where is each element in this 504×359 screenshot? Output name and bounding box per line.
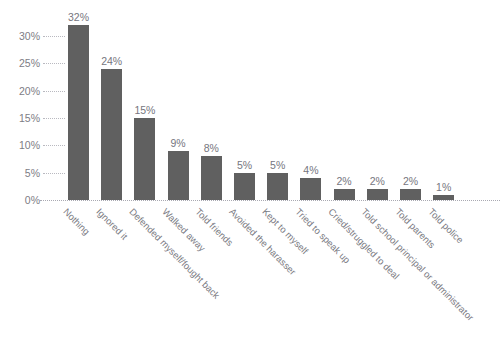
y-axis-tick-label: 10% [19,139,40,151]
zero-baseline [40,200,500,201]
bar-value-label: 24% [91,55,132,67]
y-axis-gridline-stub [43,145,65,146]
y-axis-tick: 15% [0,112,40,124]
y-axis-tick-label: 5% [25,167,40,179]
y-axis-tick: 20% [0,85,40,97]
bar [168,151,189,200]
bar [68,25,89,200]
bar [201,156,222,200]
bar [400,189,421,200]
bar [267,173,288,200]
bar [334,189,355,200]
y-axis-gridline-stub [43,173,65,174]
plot-area: 0%5%10%15%20%25%30% 32%24%15%9%8%5%5%4%2… [0,0,504,359]
y-axis-tick: 25% [0,57,40,69]
y-axis-tick: 10% [0,139,40,151]
bar [367,189,388,200]
bar-chart: 0%5%10%15%20%25%30% 32%24%15%9%8%5%5%4%2… [0,0,504,359]
y-axis-tick: 30% [0,30,40,42]
bar-value-label: 8% [191,142,232,154]
x-axis-category-label: Nothing [61,206,92,237]
y-axis-tick-label: 30% [19,30,40,42]
y-axis-gridline-stub [43,63,65,64]
bar [234,173,255,200]
bar-value-label: 15% [124,104,165,116]
x-axis-category-label: Ignored it [94,206,130,242]
y-axis-gridline-stub [43,118,65,119]
y-axis-tick: 5% [0,167,40,179]
y-axis-tick-label: 20% [19,85,40,97]
bar [433,195,454,200]
y-axis-tick: 0% [0,194,40,206]
y-axis-tick-label: 0% [25,194,40,206]
bar [101,69,122,200]
bar-value-label: 32% [58,11,99,23]
y-axis-gridline-stub [43,36,65,37]
y-axis-tick-label: 15% [19,112,40,124]
y-axis-gridline-stub [43,91,65,92]
bar [300,178,321,200]
y-axis-tick-label: 25% [19,57,40,69]
bar-value-label: 1% [423,181,464,193]
bar [134,118,155,200]
